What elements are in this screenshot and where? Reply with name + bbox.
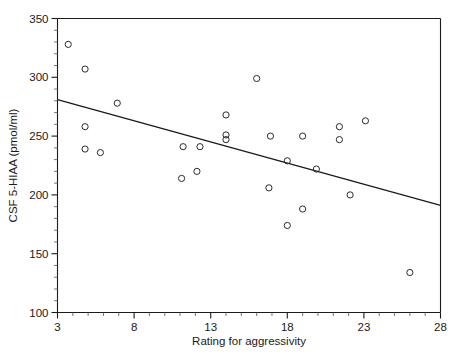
scatter-plot-figure: 1001502002503003503813182328Rating for a… (0, 0, 457, 359)
data-point-marker (254, 75, 260, 81)
y-tick-label: 250 (29, 130, 48, 142)
y-axis-title: CSF 5-HIAA (pmol/ml) (7, 108, 19, 222)
data-point-marker (180, 144, 186, 150)
y-tick-label: 100 (29, 307, 48, 319)
data-point-marker (336, 137, 342, 143)
data-point-marker (347, 192, 353, 198)
x-tick-label: 3 (54, 321, 60, 333)
data-point-marker (197, 144, 203, 150)
y-tick-label: 150 (29, 248, 48, 260)
data-point-marker (97, 149, 103, 155)
data-point-marker (362, 118, 368, 124)
y-tick-label: 350 (29, 13, 48, 25)
data-point-marker (223, 112, 229, 118)
data-point-marker (194, 168, 200, 174)
x-tick-label: 13 (204, 321, 217, 333)
x-tick-label: 23 (358, 321, 371, 333)
x-tick-label: 18 (281, 321, 294, 333)
data-point-marker (178, 175, 184, 181)
data-point-marker (336, 124, 342, 130)
x-tick-label: 8 (131, 321, 137, 333)
data-point-marker (114, 100, 120, 106)
data-point-marker (223, 137, 229, 143)
data-point-marker (407, 269, 413, 275)
x-axis-title: Rating for aggressivity (192, 335, 306, 347)
data-point-marker (300, 206, 306, 212)
plot-canvas: 1001502002503003503813182328Rating for a… (0, 0, 457, 359)
data-point-marker (266, 185, 272, 191)
data-point-marker (284, 222, 290, 228)
y-tick-label: 200 (29, 189, 48, 201)
y-tick-label: 300 (29, 71, 48, 83)
regression-line (58, 100, 441, 206)
data-point-marker (267, 133, 273, 139)
data-point-marker (82, 124, 88, 130)
data-point-marker (82, 146, 88, 152)
data-point-marker (82, 66, 88, 72)
x-tick-label: 28 (434, 321, 447, 333)
data-point-marker (300, 133, 306, 139)
data-point-marker (65, 41, 71, 47)
